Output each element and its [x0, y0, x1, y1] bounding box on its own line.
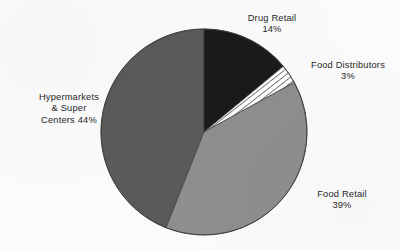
pie-chart-figure: Drug Retail 14% Food Distributors 3% Foo… — [0, 0, 400, 250]
pie-label-food-distributors: Food Distributors 3% — [296, 60, 400, 83]
pie-label-drug-retail: Drug Retail 14% — [224, 13, 320, 36]
pie-label-food-retail: Food Retail 39% — [296, 189, 388, 212]
pie-label-hypermarkets: Hypermarkets & Super Centers 44% — [17, 92, 121, 126]
